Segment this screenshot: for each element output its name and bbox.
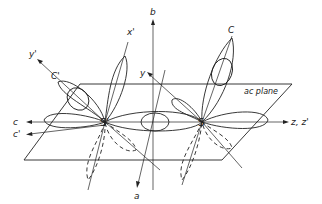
a-axis-arrow-icon [136, 181, 140, 188]
label-c: c [13, 117, 18, 127]
label-c-prime-atom: C' [51, 71, 60, 81]
s-prime-diagonal [88, 122, 160, 190]
y-prime-axis [37, 59, 105, 122]
y-prime-axis-arrow-icon [37, 59, 43, 64]
orbital-diagram: b x' y' C' y C ac plane c c' S' S z, z' … [0, 0, 322, 204]
c-prime-axis [26, 125, 105, 136]
c-axis-arrow-icon [26, 120, 32, 124]
label-z-zprime: z, z' [290, 117, 309, 127]
y-axis [147, 72, 202, 122]
c-axis [26, 120, 105, 124]
label-s-prime: S' [100, 117, 109, 128]
y-axis-arrow-icon [147, 72, 153, 77]
b-axis-arrow-icon [151, 19, 155, 25]
label-c-atom: C [228, 25, 235, 35]
label-y-prime: y' [28, 49, 37, 59]
label-ac-plane: ac plane [244, 87, 278, 96]
z-axis [105, 120, 289, 124]
diagram-canvas: b x' y' C' y C ac plane c c' S' S z, z' … [0, 0, 322, 204]
label-c-prime: c' [13, 129, 20, 139]
c-prime-axis-arrow-icon [26, 132, 33, 136]
label-s: S [198, 117, 204, 128]
z-axis-arrow-icon [283, 120, 289, 124]
s-prime-lobes [44, 56, 202, 180]
s-lobes [172, 38, 268, 180]
label-x-prime: x' [126, 27, 135, 37]
labels: b x' y' C' y C ac plane c c' S' S z, z' … [13, 7, 309, 201]
label-a: a [134, 191, 140, 201]
a-axis [136, 70, 165, 188]
label-y: y [139, 68, 146, 78]
label-b: b [150, 7, 156, 17]
